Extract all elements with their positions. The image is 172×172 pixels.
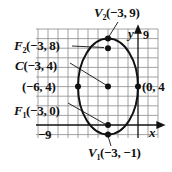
ellipse-diagram: V2(−3, 9) F2(−3, 8) C(−3, 4) (−6, 4) (0,… <box>0 0 172 172</box>
label-v1: V1(−3, −1) <box>88 146 141 162</box>
y-max-tick-label: 9 <box>143 29 149 41</box>
point-center <box>105 84 111 90</box>
x-axis-label: x <box>149 126 155 139</box>
label-f1: F1(−3, 0) <box>14 104 60 120</box>
label-left-vertex: (−6, 4) <box>22 80 55 93</box>
label-right-vertex: (0, 4 <box>142 80 164 93</box>
point-v1 <box>105 132 111 138</box>
y-axis-arrow-icon <box>135 26 141 33</box>
y-axis-label: y <box>128 27 133 40</box>
point-v2 <box>105 36 111 42</box>
label-f2: F2(−3, 8) <box>14 39 60 55</box>
point-f2 <box>105 45 111 51</box>
point-right-vertex <box>135 84 141 90</box>
label-center: C(−3, 4) <box>15 59 57 72</box>
point-f1 <box>105 122 111 128</box>
point-left-vertex <box>75 84 81 90</box>
x-axis-arrow-icon <box>157 122 164 128</box>
label-v2: V2(−3, 9) <box>94 6 140 22</box>
x-min-tick-label: −9 <box>38 128 51 141</box>
